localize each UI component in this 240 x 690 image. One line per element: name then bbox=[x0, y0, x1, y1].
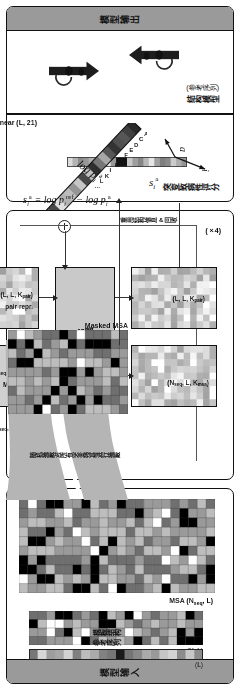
recycle-count: (×4) bbox=[205, 227, 221, 235]
merge-down-stub bbox=[20, 225, 66, 226]
linear-l21-label: Linear (L, 21) bbox=[0, 119, 37, 127]
output-panel: 模型输出 结构模型 (参考序列) 突变致病性评分 sia a i log pia… bbox=[6, 6, 234, 202]
pair-repr-dims: (L, L, Kpair) bbox=[1, 291, 33, 299]
input-panel-title: 模型输入 bbox=[100, 665, 140, 678]
recycle-line bbox=[196, 225, 197, 461]
msa-grid bbox=[19, 499, 215, 593]
random-mask-label: 随机掩蔽 bbox=[30, 452, 54, 459]
arrow-pair-to-evo bbox=[39, 297, 53, 298]
axis-i-label: i bbox=[200, 169, 211, 172]
reference-sequence-dims: (L) bbox=[195, 661, 203, 668]
output-msa-repr-dims: (Nseq, L, Kmsa) bbox=[167, 379, 209, 387]
mask-all-variants-label: 对所有突变残基进行掩蔽 bbox=[54, 452, 120, 459]
score-axes bbox=[163, 135, 209, 179]
output-panel-band: 模型输出 bbox=[7, 7, 233, 31]
recycle-line-left bbox=[65, 225, 197, 226]
arrow-evo-to-pair bbox=[115, 297, 129, 298]
reference-sequence-label: 参考序列 bbox=[93, 639, 121, 647]
masked-msa-grid bbox=[8, 330, 128, 414]
axis-a-label: a bbox=[178, 147, 189, 152]
masked-msa-label: Masked MSA bbox=[85, 322, 128, 330]
reference-sequence-strip bbox=[29, 649, 203, 660]
arrow-merge-to-pair bbox=[65, 231, 66, 265]
score-formula: sia = log piref − log pia bbox=[23, 193, 111, 208]
figure-stage: 模型输出 结构模型 (参考序列) 突变致病性评分 sia a i log pia… bbox=[0, 0, 240, 690]
output-pair-repr-dims: (L, L, Kpair) bbox=[173, 295, 205, 303]
connector-pair-to-output bbox=[179, 203, 180, 267]
output-panel-divider bbox=[7, 113, 233, 115]
connector-msa-to-output bbox=[119, 203, 120, 345]
input-panel: 模型输入 MSA (Nseq, L) 模板结构 (N, L) 参考序列 (L) bbox=[6, 488, 234, 684]
template-label: 模板结构 bbox=[93, 629, 121, 637]
output-panel-title: 模型输出 bbox=[100, 12, 140, 25]
output-msa-repr-tile bbox=[131, 345, 217, 407]
score-label: 突变致病性评分 bbox=[163, 183, 219, 192]
recycle-label: 重用结构信息 & 回收 bbox=[121, 217, 177, 224]
structure-model-label: 结构模型 bbox=[187, 95, 219, 104]
structure-cartoon bbox=[19, 33, 209, 95]
score-symbol: sia bbox=[149, 175, 158, 191]
msa-grid-label: MSA (Nseq, L) bbox=[169, 597, 213, 607]
